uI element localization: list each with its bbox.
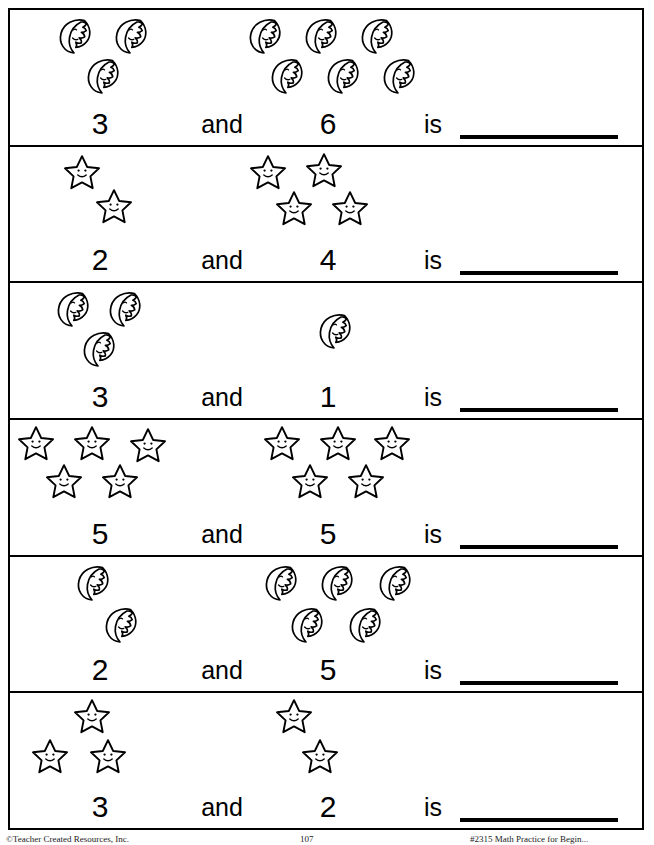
moon-icon [356, 16, 396, 56]
moon-icon [82, 56, 122, 96]
moon-icon [244, 16, 284, 56]
addend-b: 6 [300, 109, 356, 139]
moon-icon [300, 16, 340, 56]
problem-row: 5and5is [10, 420, 642, 557]
star-icon [30, 737, 70, 777]
problem-row: 3and6is [10, 10, 642, 147]
addend-a: 3 [72, 792, 128, 822]
star-icon [72, 697, 112, 737]
moon-icon [314, 311, 354, 351]
star-icon [88, 737, 128, 777]
star-icon [274, 697, 314, 737]
is-label: is [410, 792, 456, 822]
answer-blank[interactable] [460, 271, 618, 275]
problem-rows-container: 3and6is2and4is3and1is5and5is2and5is3and2… [8, 8, 644, 830]
and-label: and [186, 519, 258, 549]
problem-row: 2and4is [10, 147, 642, 284]
addend-a: 2 [72, 655, 128, 685]
icon-group-right [240, 424, 440, 508]
problem-row: 3and1is [10, 283, 642, 420]
star-icon [330, 189, 370, 229]
icon-group-left [10, 424, 240, 508]
is-label: is [410, 109, 456, 139]
is-label: is [410, 382, 456, 412]
answer-blank[interactable] [460, 135, 618, 139]
icon-group-right [240, 561, 440, 645]
worksheet-page: 3and6is2and4is3and1is5and5is2and5is3and2… [0, 0, 654, 845]
icon-group-left [10, 287, 240, 371]
star-icon [16, 424, 56, 464]
moon-icon [100, 605, 140, 645]
and-label: and [186, 245, 258, 275]
problem-row: 3and2is [10, 693, 642, 828]
addend-b: 2 [300, 792, 356, 822]
addend-a: 3 [72, 109, 128, 139]
moon-icon [378, 56, 418, 96]
equation-line: 2and4is [10, 237, 642, 277]
moon-icon [54, 16, 94, 56]
icon-group-right [240, 697, 440, 781]
and-label: and [186, 109, 258, 139]
is-label: is [410, 655, 456, 685]
footer-right-text: #2315 Math Practice for Begin... [470, 834, 588, 845]
equation-line: 3and6is [10, 101, 642, 141]
answer-blank[interactable] [460, 408, 618, 412]
moon-icon [260, 563, 300, 603]
page-footer: ©Teacher Created Resources, Inc. 107 #23… [0, 834, 654, 845]
icon-group-left [10, 561, 240, 645]
moon-icon [72, 563, 112, 603]
star-icon [248, 153, 288, 193]
icon-group-left [10, 14, 240, 98]
addend-b: 5 [300, 519, 356, 549]
addend-b: 5 [300, 655, 356, 685]
star-icon [290, 462, 330, 502]
star-icon [100, 462, 140, 502]
moon-icon [110, 16, 150, 56]
addend-a: 3 [72, 382, 128, 412]
equation-line: 3and2is [10, 784, 642, 824]
moon-icon [344, 605, 384, 645]
icon-group-left [10, 151, 240, 235]
equation-line: 3and1is [10, 374, 642, 414]
moon-icon [286, 605, 326, 645]
is-label: is [410, 245, 456, 275]
icon-group-right [240, 287, 440, 371]
answer-blank[interactable] [460, 545, 618, 549]
star-icon [318, 424, 358, 464]
and-label: and [186, 792, 258, 822]
moon-icon [316, 563, 356, 603]
answer-blank[interactable] [460, 818, 618, 822]
icon-group-left [10, 697, 240, 781]
star-icon [44, 462, 84, 502]
star-icon [274, 189, 314, 229]
star-icon [128, 426, 168, 466]
star-icon [300, 737, 340, 777]
moon-icon [322, 56, 362, 96]
moon-icon [104, 289, 144, 329]
is-label: is [410, 519, 456, 549]
addend-b: 1 [300, 382, 356, 412]
and-label: and [186, 382, 258, 412]
moon-icon [78, 329, 118, 369]
moon-icon [52, 289, 92, 329]
moon-icon [266, 56, 306, 96]
star-icon [94, 187, 134, 227]
star-icon [262, 424, 302, 464]
icon-group-right [240, 14, 440, 98]
star-icon [304, 151, 344, 191]
equation-line: 5and5is [10, 511, 642, 551]
addend-a: 5 [72, 519, 128, 549]
footer-left-text: ©Teacher Created Resources, Inc. [6, 834, 129, 845]
star-icon [372, 424, 412, 464]
star-icon [72, 424, 112, 464]
answer-blank[interactable] [460, 681, 618, 685]
equation-line: 2and5is [10, 647, 642, 687]
footer-page-number: 107 [300, 834, 314, 845]
addend-a: 2 [72, 245, 128, 275]
star-icon [346, 462, 386, 502]
problem-row: 2and5is [10, 557, 642, 694]
addend-b: 4 [300, 245, 356, 275]
icon-group-right [240, 151, 440, 235]
and-label: and [186, 655, 258, 685]
moon-icon [374, 563, 414, 603]
